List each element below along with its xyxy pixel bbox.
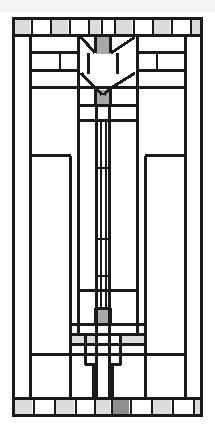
top-pane-6 (103, 20, 113, 34)
bottom-pane-5 (96, 399, 110, 414)
top-pane-10 (173, 20, 189, 34)
bottom-pane-1 (14, 399, 32, 414)
top-pane-9 (154, 20, 170, 34)
bottom-pane-6 (113, 399, 129, 414)
top-pane-3 (52, 20, 68, 34)
top-pane-7 (116, 20, 132, 34)
lower-left-accent-pane (70, 335, 96, 344)
bottom-pane-2 (35, 399, 53, 414)
tulip-bud-accent (96, 36, 110, 54)
stained-glass-panel (0, 0, 215, 432)
lower-stem-node-accent (96, 309, 110, 325)
bottom-pane-3 (56, 399, 74, 414)
bottom-pane-9 (174, 399, 192, 414)
top-pane-11 (192, 20, 201, 34)
top-pane-5 (90, 20, 100, 34)
bottom-pane-8 (153, 399, 171, 414)
artwork-stage: Prairie School Stained Glass Window Pane… (0, 0, 215, 432)
bottom-pane-7 (132, 399, 150, 414)
bottom-pane-4 (77, 399, 93, 414)
canvas-background (0, 0, 215, 432)
top-pane-8 (135, 20, 151, 34)
top-pane-1 (14, 20, 30, 34)
top-pane-4 (71, 20, 87, 34)
top-pane-2 (33, 20, 49, 34)
top-paper-strip (0, 0, 215, 12)
lower-right-accent-pane (119, 335, 145, 344)
